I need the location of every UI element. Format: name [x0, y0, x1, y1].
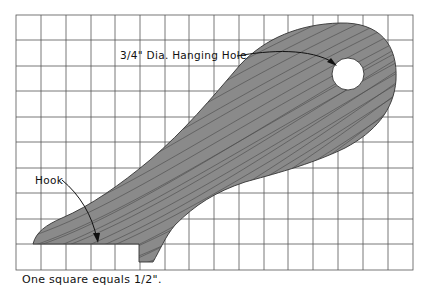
- hole-label: 3/4" Dia. Hanging Hole: [120, 49, 247, 61]
- hook-label: Hook: [35, 174, 64, 186]
- scale-caption: One square equals 1/2".: [22, 273, 162, 286]
- paddle-shape: [20, 0, 420, 288]
- pattern-diagram: 3/4" Dia. Hanging Hole Hook: [0, 0, 426, 302]
- hanging-hole: [332, 58, 364, 90]
